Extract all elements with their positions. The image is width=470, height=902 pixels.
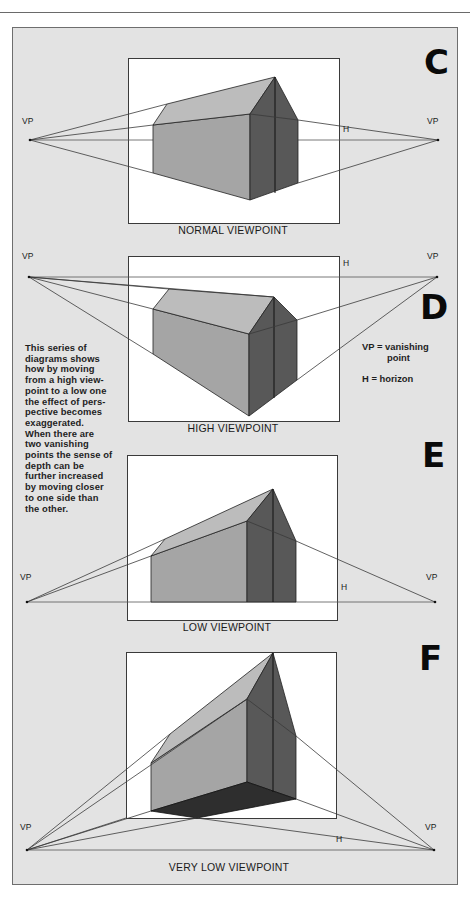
diagram-caption: VERY LOW VIEWPOINT (169, 861, 290, 873)
diagram-caption: HIGH VIEWPOINT (188, 422, 279, 434)
vanishing-point-left (29, 139, 32, 142)
vp-label-right: VP (427, 251, 439, 261)
legend-vp-point: point (387, 352, 410, 363)
vp-label-left: VP (22, 116, 34, 126)
horizon-label: H (343, 258, 349, 268)
vp-label-left: VP (20, 822, 32, 832)
diagram-letter: C (424, 42, 449, 82)
description-line: to one side than (25, 493, 135, 504)
vanishing-point-right (436, 276, 439, 279)
diagram-caption: LOW VIEWPOINT (183, 621, 272, 633)
vanishing-point-right (434, 601, 437, 604)
horizon-label: H (336, 834, 342, 844)
legend-vp: VP = vanishing (362, 341, 429, 352)
horizon-label: H (341, 582, 347, 592)
diagram-letter: D (420, 287, 448, 327)
diagram-letter: F (419, 638, 442, 678)
description-line: point to a low one (25, 386, 135, 397)
diagram-letter: E (422, 435, 445, 475)
vp-label-right: VP (427, 116, 439, 126)
description-line: the other. (25, 504, 135, 515)
legend-horizon: H = horizon (362, 373, 413, 384)
vanishing-point-right (437, 139, 440, 142)
vanishing-point-left (28, 276, 31, 279)
vanishing-point-right (433, 849, 436, 852)
vp-label-right: VP (426, 572, 438, 582)
vanishing-point-left (26, 849, 29, 852)
vp-label-left: VP (22, 251, 34, 261)
vanishing-point-left (26, 601, 29, 604)
description-text: This series ofdiagrams showshow by movin… (25, 343, 135, 514)
diagram-caption: NORMAL VIEWPOINT (178, 224, 288, 236)
horizon-label: H (343, 124, 349, 134)
vp-label-right: VP (425, 822, 437, 832)
vp-label-left: VP (20, 572, 32, 582)
